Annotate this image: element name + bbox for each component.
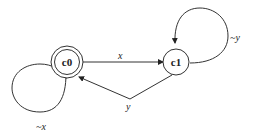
state-c1: c1 — [163, 49, 189, 75]
transition-label: ~x — [36, 121, 46, 132]
transition-c1-c0: y — [79, 75, 172, 112]
state-diagram: ~x x y ~y c0 c1 — [0, 0, 254, 135]
state-label: c0 — [62, 56, 73, 68]
transition-label: y — [125, 101, 131, 112]
state-c0: c0 — [51, 46, 83, 78]
transition-label: x — [117, 50, 123, 61]
transition-label: ~y — [230, 32, 240, 43]
transition-c0-c1: x — [83, 50, 163, 62]
state-label: c1 — [171, 56, 181, 68]
